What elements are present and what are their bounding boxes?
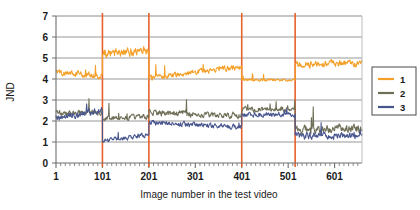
y-tick-label-5: 5 <box>42 53 48 64</box>
x-tick-label-601: 601 <box>326 171 343 182</box>
chart-canvas: 01234567 1101201301401501601 JND Image n… <box>0 0 420 210</box>
x-axis-title: Image number in the test video <box>140 189 278 200</box>
y-axis: 01234567 <box>42 11 56 169</box>
y-tick-label-7: 7 <box>42 11 48 22</box>
y-tick-label-3: 3 <box>42 95 48 106</box>
legend-label-3: 3 <box>400 102 405 113</box>
y-tick-label-1: 1 <box>42 137 48 148</box>
x-tick-label-201: 201 <box>141 171 158 182</box>
legend-label-1: 1 <box>400 74 406 85</box>
y-tick-label-0: 0 <box>42 158 48 169</box>
legend: 123 <box>372 67 416 115</box>
jnd-line-chart: 01234567 1101201301401501601 JND Image n… <box>0 0 420 210</box>
x-tick-label-401: 401 <box>233 171 250 182</box>
x-tick-label-301: 301 <box>187 171 204 182</box>
y-axis-title: JND <box>5 82 16 101</box>
x-tick-label-501: 501 <box>280 171 297 182</box>
x-tick-label-101: 101 <box>94 171 111 182</box>
y-tick-label-6: 6 <box>42 32 48 43</box>
x-axis: 1101201301401501601 <box>53 163 358 182</box>
y-tick-label-4: 4 <box>42 74 48 85</box>
y-tick-label-2: 2 <box>42 116 48 127</box>
x-tick-label-1: 1 <box>53 171 59 182</box>
legend-label-2: 2 <box>400 88 405 99</box>
